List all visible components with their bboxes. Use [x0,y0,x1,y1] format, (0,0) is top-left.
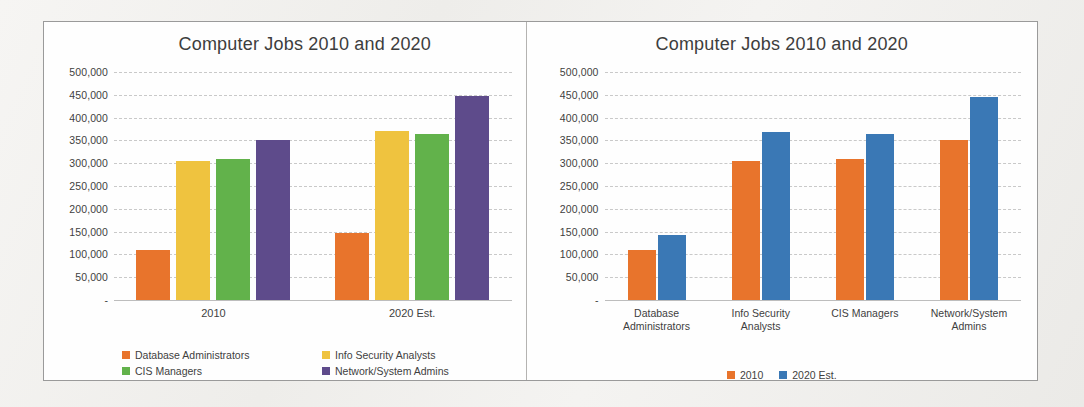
chart-right-bars [605,72,1021,300]
bar [455,96,489,300]
chart-right-plot-area: 500,000450,000400,000350,000300,000250,0… [605,72,1021,300]
y-axis-tick-label: 400,000 [560,112,599,124]
legend-item: CIS Managers [122,365,322,377]
legend-swatch-icon [322,351,330,359]
legend-swatch-icon [122,367,130,375]
bar-group [114,72,313,300]
legend-swatch-icon [727,371,735,379]
bar [415,134,449,300]
chart-right: Computer Jobs 2010 and 2020 500,000450,0… [527,22,1037,380]
bar [335,233,369,300]
legend-swatch-icon [322,367,330,375]
y-axis-tick-label: 400,000 [69,112,108,124]
chart-right-x-axis: DatabaseAdministratorsInfo SecurityAnaly… [605,300,1021,333]
chart-left-plot-area: 500,000450,000400,000350,000300,000250,0… [114,72,512,300]
bar [658,235,686,300]
bar [762,132,790,300]
legend-label: 2010 [740,369,763,381]
y-axis-tick-label: - [104,294,108,306]
y-axis-tick-label: 50,000 [75,271,108,283]
bar-group [917,72,1021,300]
bar [176,161,210,300]
bar-group [313,72,512,300]
y-axis-tick-label: 350,000 [560,134,599,146]
x-axis-category-label: DatabaseAdministrators [605,307,709,333]
y-axis-tick-label: - [595,294,599,306]
y-axis-tick-label: 450,000 [560,89,599,101]
bar-group [813,72,917,300]
chart-left-x-axis: 20102020 Est. [114,300,512,321]
legend-item: Network/System Admins [322,365,522,377]
chart-left-legend: Database AdministratorsInfo Security Ana… [78,347,532,379]
bar [866,134,894,300]
legend-swatch-icon [779,371,787,379]
chart-right-y-axis: 500,000450,000400,000350,000300,000250,0… [531,72,599,300]
y-axis-tick-label: 450,000 [69,89,108,101]
x-axis-category-label: 2010 [114,307,313,321]
y-axis-tick-label: 300,000 [69,157,108,169]
y-axis-tick-label: 350,000 [69,134,108,146]
x-axis-category-label: Info SecurityAnalysts [709,307,813,333]
bar [940,140,968,300]
bar [136,250,170,300]
bar-group [605,72,709,300]
bar [836,159,864,300]
y-axis-tick-label: 100,000 [69,248,108,260]
bar [256,140,290,300]
chart-left-title: Computer Jobs 2010 and 2020 [44,34,526,55]
legend-label: 2020 Est. [792,369,836,381]
y-axis-tick-label: 500,000 [560,66,599,78]
bar [628,250,656,300]
chart-right-title: Computer Jobs 2010 and 2020 [527,34,1037,55]
legend-swatch-icon [122,351,130,359]
y-axis-tick-label: 200,000 [69,203,108,215]
legend-item: Info Security Analysts [322,349,522,361]
x-axis-category-label: Network/SystemAdmins [917,307,1021,333]
y-axis-tick-label: 150,000 [560,226,599,238]
legend-label: CIS Managers [135,365,202,377]
legend-label: Network/System Admins [335,365,449,377]
bar [732,161,760,300]
chart-left-bars [114,72,512,300]
y-axis-tick-label: 250,000 [560,180,599,192]
y-axis-tick-label: 250,000 [69,180,108,192]
y-axis-tick-label: 500,000 [69,66,108,78]
chart-left: Computer Jobs 2010 and 2020 500,000450,0… [44,22,527,380]
y-axis-tick-label: 200,000 [560,203,599,215]
chart-left-y-axis: 500,000450,000400,000350,000300,000250,0… [46,72,108,300]
y-axis-tick-label: 150,000 [69,226,108,238]
chart-right-legend: 20102020 Est. [527,367,1037,383]
x-axis-category-label: CIS Managers [813,307,917,333]
bar [375,131,409,300]
bar [970,97,998,300]
y-axis-tick-label: 100,000 [560,248,599,260]
y-axis-tick-label: 300,000 [560,157,599,169]
legend-item: 2010 [727,369,763,381]
x-axis-category-label: 2020 Est. [313,307,512,321]
legend-item: 2020 Est. [779,369,836,381]
charts-panel: Computer Jobs 2010 and 2020 500,000450,0… [43,21,1038,381]
legend-label: Info Security Analysts [335,349,435,361]
legend-item: Database Administrators [122,349,322,361]
legend-label: Database Administrators [135,349,249,361]
y-axis-tick-label: 50,000 [566,271,599,283]
bar [216,159,250,300]
bar-group [709,72,813,300]
